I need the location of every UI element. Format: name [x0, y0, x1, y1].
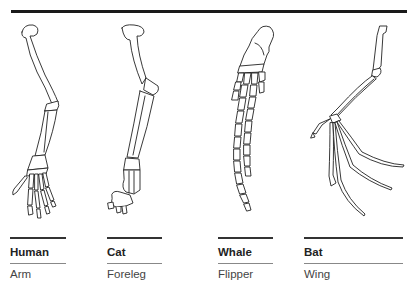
- animal-name: Bat: [304, 245, 403, 259]
- label-divider: [107, 263, 162, 264]
- label-divider: [10, 263, 66, 264]
- label-rule: [304, 237, 403, 239]
- label-rule: [107, 237, 162, 239]
- label-whale: Whale Flipper: [218, 237, 273, 281]
- limb-structure: Wing: [304, 267, 403, 281]
- limb-illustrations: [0, 0, 414, 230]
- human-arm-icon: [13, 25, 59, 218]
- animal-name: Whale: [218, 245, 273, 259]
- label-divider: [218, 263, 273, 264]
- label-divider: [304, 263, 403, 264]
- limb-structure: Arm: [10, 267, 66, 281]
- label-cat: Cat Foreleg: [107, 237, 162, 281]
- label-human: Human Arm: [10, 237, 66, 281]
- label-rule: [10, 237, 66, 239]
- label-bat: Bat Wing: [304, 237, 403, 281]
- animal-name: Cat: [107, 245, 162, 259]
- animal-name: Human: [10, 245, 66, 259]
- limb-structure: Foreleg: [107, 267, 162, 281]
- label-rule: [218, 237, 273, 239]
- whale-flipper-icon: [232, 26, 274, 211]
- bat-wing-icon: [311, 26, 404, 216]
- cat-foreleg-icon: [108, 25, 158, 214]
- limb-structure: Flipper: [218, 267, 273, 281]
